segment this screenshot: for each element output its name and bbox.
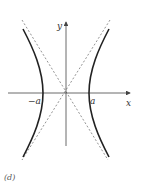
vertex-right-label: a <box>90 96 95 106</box>
figure-caption: (d) <box>4 173 15 182</box>
vertex-left-label: −a <box>28 96 41 106</box>
x-axis-label: x <box>126 98 131 108</box>
hyperbola-diagram: y x −a a (d) <box>0 0 141 182</box>
y-axis-label: y <box>56 21 63 31</box>
